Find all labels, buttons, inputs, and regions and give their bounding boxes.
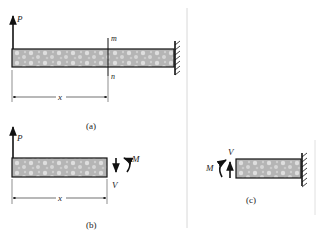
caption-a: (a) — [86, 121, 96, 131]
label-v-c: V — [228, 147, 235, 157]
beam-c — [236, 159, 301, 178]
fixed-support-a — [175, 41, 180, 75]
beam-b — [12, 158, 107, 177]
label-m-c: M — [205, 163, 214, 173]
panel-a: P m n x (a) — [12, 14, 180, 131]
caption-b: (b) — [86, 220, 97, 230]
label-m-section: m — [111, 34, 117, 43]
label-x-a: x — [57, 92, 62, 102]
moment-arrow-m-c — [220, 160, 226, 177]
panel-b: P V M x (b) — [12, 127, 140, 230]
caption-c: (c) — [246, 195, 256, 205]
moment-arrow-m-b — [124, 158, 130, 172]
fixed-support-c — [302, 153, 307, 187]
label-n-section: n — [111, 72, 115, 81]
label-p-a: P — [16, 14, 23, 24]
beam-diagram: P m n x (a) P V M x (b) — [0, 0, 322, 240]
label-p-b: P — [16, 133, 23, 143]
label-v-b: V — [112, 180, 119, 190]
panel-c: V M (c) — [205, 147, 307, 205]
label-x-b: x — [57, 193, 62, 203]
label-m-b: M — [131, 154, 140, 164]
beam-a — [12, 49, 174, 67]
